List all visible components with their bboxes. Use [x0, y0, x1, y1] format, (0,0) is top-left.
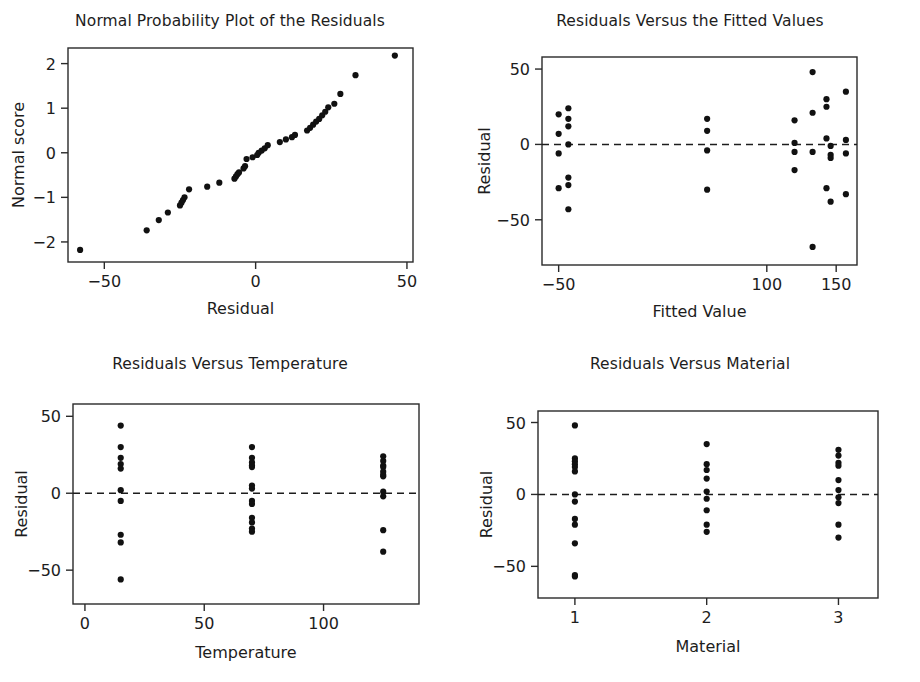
y-tick-label: −2 [32, 233, 56, 252]
data-point [823, 104, 829, 110]
y-axis-label: Residual [477, 471, 496, 539]
y-tick-label: 50 [506, 414, 526, 433]
x-tick-label: −50 [87, 272, 121, 291]
x-tick-label: 50 [397, 272, 417, 291]
y-tick-label: −50 [27, 561, 61, 580]
data-point [704, 116, 710, 122]
x-tick-label: 100 [752, 275, 783, 294]
x-tick-label: 50 [194, 614, 214, 633]
plot-area: −50050050100TemperatureResidual [0, 341, 460, 682]
data-point [283, 136, 289, 142]
y-tick-label: −1 [32, 188, 56, 207]
data-point [249, 486, 255, 492]
data-point [249, 519, 255, 525]
data-point [380, 493, 386, 499]
data-point [556, 150, 562, 156]
residual-diagnostics-figure: Normal Probability Plot of the Residuals… [0, 0, 920, 682]
data-point [352, 72, 358, 78]
data-point [828, 143, 834, 149]
data-point [791, 149, 797, 155]
y-tick-label: −50 [492, 557, 526, 576]
data-point [809, 244, 815, 250]
data-point [565, 182, 571, 188]
data-point [165, 209, 171, 215]
data-point [277, 139, 283, 145]
data-point [835, 447, 841, 453]
y-tick-label: 50 [510, 60, 530, 79]
data-point [556, 185, 562, 191]
data-point [325, 104, 331, 110]
data-point [565, 174, 571, 180]
data-point [118, 576, 124, 582]
x-tick-label: 3 [833, 608, 843, 627]
data-point [791, 167, 797, 173]
x-tick-label: −50 [542, 275, 576, 294]
x-tick-label: 2 [702, 608, 712, 627]
data-point [337, 91, 343, 97]
data-point [156, 217, 162, 223]
data-point [380, 527, 386, 533]
data-point [823, 135, 829, 141]
data-point [823, 96, 829, 102]
data-point [565, 206, 571, 212]
x-tick-label: 0 [80, 614, 90, 633]
data-point [843, 137, 849, 143]
plot-frame [542, 57, 857, 265]
data-point [265, 142, 271, 148]
y-tick-label: 0 [520, 135, 530, 154]
y-tick-label: 50 [41, 407, 61, 426]
data-point [572, 573, 578, 579]
data-point [843, 150, 849, 156]
data-point [118, 422, 124, 428]
data-point [704, 476, 710, 482]
data-point [835, 534, 841, 540]
panel-normal-probability-plot: Normal Probability Plot of the Residuals… [0, 0, 460, 341]
data-point [118, 455, 124, 461]
x-tick-label: 100 [308, 614, 339, 633]
x-axis-label: Fitted Value [652, 302, 746, 321]
data-point [118, 487, 124, 493]
data-point [380, 473, 386, 479]
data-point [809, 110, 815, 116]
data-point [835, 494, 841, 500]
data-point [572, 516, 578, 522]
y-tick-label: 0 [516, 485, 526, 504]
data-point [249, 464, 255, 470]
data-point [572, 499, 578, 505]
data-point [704, 507, 710, 513]
data-point [292, 132, 298, 138]
data-point [828, 199, 834, 205]
data-point [118, 498, 124, 504]
data-point [565, 116, 571, 122]
data-point [118, 539, 124, 545]
data-point [704, 488, 710, 494]
panel-residuals-vs-fitted: Residuals Versus the Fitted Values −5005… [460, 0, 920, 341]
y-tick-label: 0 [51, 484, 61, 503]
data-point [835, 522, 841, 528]
plot-area: −2−1012−50050ResidualNormal score [0, 0, 460, 341]
plot-frame [68, 48, 413, 262]
data-point [249, 501, 255, 507]
y-tick-label: −50 [496, 211, 530, 230]
data-point [565, 123, 571, 129]
data-point [204, 184, 210, 190]
data-point [704, 128, 710, 134]
data-point [809, 149, 815, 155]
data-point [835, 463, 841, 469]
data-point [572, 540, 578, 546]
data-point [704, 461, 710, 467]
data-point [704, 441, 710, 447]
data-point [835, 477, 841, 483]
data-point [791, 117, 797, 123]
x-tick-label: 0 [251, 272, 261, 291]
x-axis-label: Residual [207, 299, 275, 318]
y-tick-label: 1 [46, 99, 56, 118]
y-axis-label: Residual [12, 470, 31, 538]
x-tick-label: 150 [821, 275, 852, 294]
data-point [835, 487, 841, 493]
data-point [704, 529, 710, 535]
x-tick-label: 1 [570, 608, 580, 627]
data-point [843, 191, 849, 197]
y-axis-label: Normal score [9, 102, 28, 208]
data-point [565, 141, 571, 147]
